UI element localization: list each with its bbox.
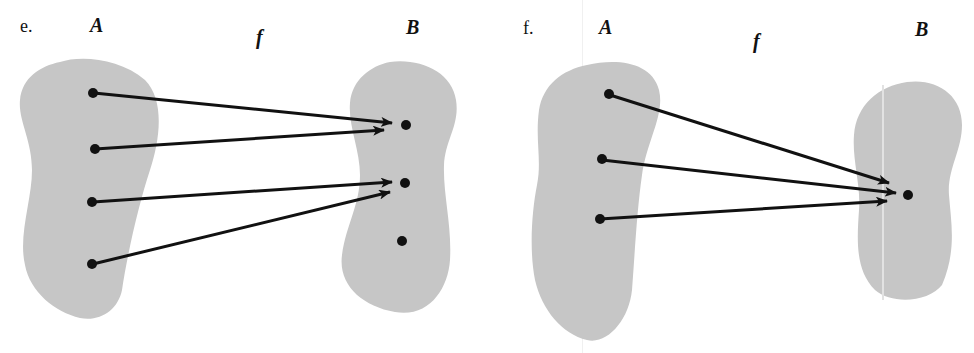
figure-e-label: e. <box>20 16 33 37</box>
point-a3 <box>87 197 97 207</box>
point-a1 <box>88 88 98 98</box>
figure-f: f. A f B <box>487 0 974 353</box>
arrow-a1-b1 <box>610 95 889 183</box>
point-b1 <box>903 190 913 200</box>
point-b2 <box>400 178 410 188</box>
diagram-f-canvas <box>487 0 974 353</box>
point-a2 <box>597 154 607 164</box>
diagram-e-canvas <box>0 0 487 353</box>
point-a2 <box>90 144 100 154</box>
point-b3 <box>397 236 407 246</box>
set-b-label: B <box>406 16 419 39</box>
point-a4 <box>87 259 97 269</box>
set-b-blob <box>342 61 457 312</box>
point-b1 <box>401 120 411 130</box>
set-a-label: A <box>599 16 612 39</box>
arrow-a3-b1 <box>600 201 887 219</box>
function-f-label: f <box>753 30 760 53</box>
point-a1 <box>604 89 614 99</box>
function-f-label: f <box>256 26 263 49</box>
set-a-label: A <box>90 14 103 37</box>
set-b-label: B <box>915 18 928 41</box>
arrow-a2-b1 <box>602 160 896 193</box>
point-a3 <box>595 214 605 224</box>
figure-f-label: f. <box>523 18 534 39</box>
figure-e: e. A f B <box>0 0 487 353</box>
